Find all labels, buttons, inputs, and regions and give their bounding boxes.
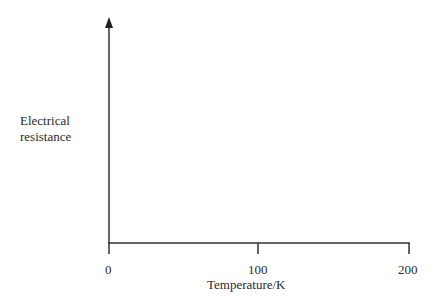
x-tick-label-200: 200 <box>398 262 418 278</box>
y-axis-arrow-icon <box>105 17 113 28</box>
y-axis-label-line2: resistance <box>20 129 71 145</box>
x-tick-label-100: 100 <box>248 262 268 278</box>
y-axis-label-line1: Electrical <box>20 113 70 129</box>
chart-canvas <box>0 0 445 305</box>
x-tick-label-0: 0 <box>105 262 112 278</box>
x-axis-label: Temperature/K <box>207 277 286 293</box>
